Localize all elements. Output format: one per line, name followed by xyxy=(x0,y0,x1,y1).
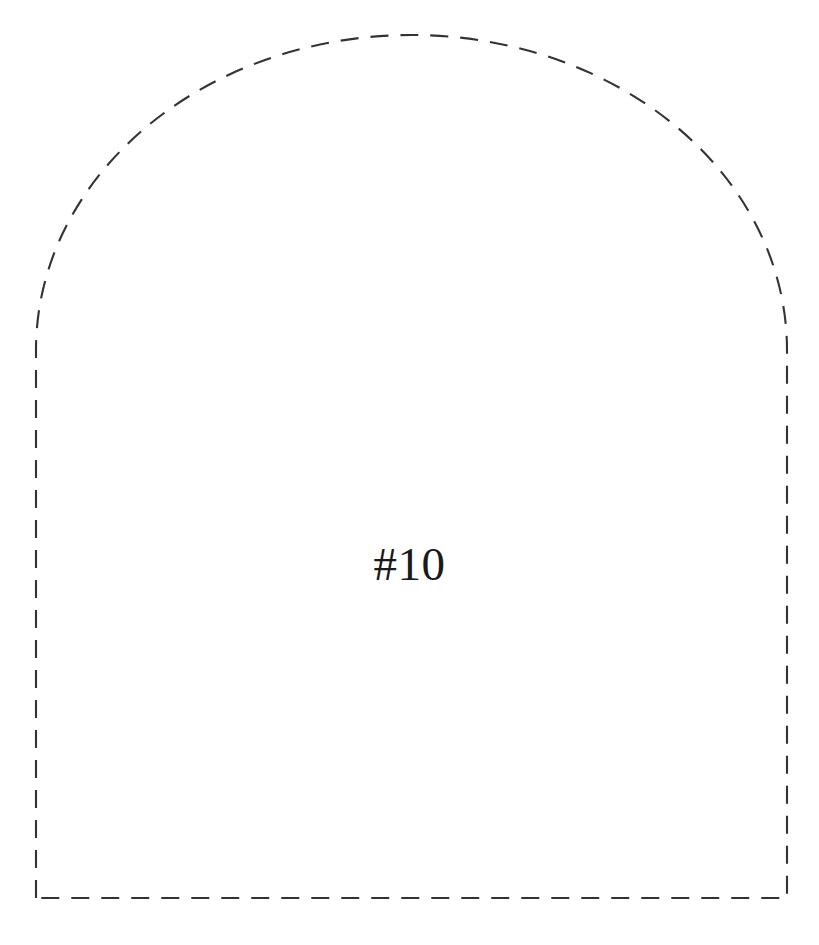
pattern-canvas: #10 xyxy=(0,0,819,945)
pattern-piece-label: #10 xyxy=(0,541,819,588)
pattern-outline-svg xyxy=(0,0,819,945)
pattern-piece-outline xyxy=(36,35,787,898)
